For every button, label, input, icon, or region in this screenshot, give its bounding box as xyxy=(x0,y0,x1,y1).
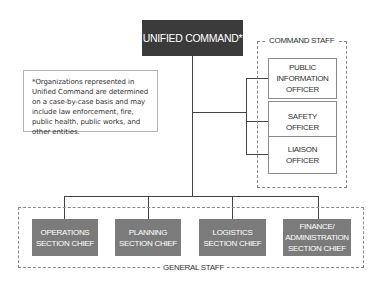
public-information-officer-box: PUBLIC INFORMATION OFFICER xyxy=(268,58,337,99)
connector-top-vertical xyxy=(192,56,193,197)
connector-to-command-staff xyxy=(192,112,247,113)
unified-command-label: UNIFIED COMMAND* xyxy=(143,32,243,44)
command-staff-label: COMMAND STAFF xyxy=(266,36,337,45)
footnote-box: *Organizations represented in Unified Co… xyxy=(23,70,158,132)
operations-section-chief-box: OPERATIONS SECTION CHIEF xyxy=(32,219,98,256)
connector-general-staff-bar xyxy=(64,196,319,197)
general-staff-label: GENERAL STAFF xyxy=(160,263,227,272)
connector-command-staff-spine xyxy=(246,78,247,155)
planning-section-chief-box: PLANNING SECTION CHIEF xyxy=(115,219,181,256)
finance-administration-section-chief-box: FINANCE/ ADMINISTRATION SECTION CHIEF xyxy=(283,219,351,256)
footnote-text: *Organizations represented in Unified Co… xyxy=(32,78,148,136)
unified-command-box: UNIFIED COMMAND* xyxy=(142,20,243,56)
liaison-officer-box: LIAISON OFFICER xyxy=(268,136,337,174)
logistics-section-chief-box: LOGISTICS SECTION CHIEF xyxy=(199,219,266,256)
